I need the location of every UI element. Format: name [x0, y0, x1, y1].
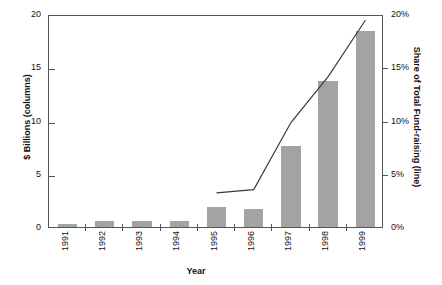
y-tick-label-left: 20 [31, 9, 41, 19]
y-tick-label-left: 0 [36, 222, 41, 232]
y-tick-label-left: 10 [31, 116, 41, 126]
y-tick-label-right: 10% [391, 116, 409, 126]
x-axis-title: Year [146, 266, 246, 276]
y-tick-mark-left [49, 176, 55, 177]
y-tick-label-right: 0% [391, 222, 404, 232]
plot-area: 05101520 0%5%10%15%20% 19911992199319941… [48, 15, 383, 228]
y-tick-mark-left [49, 69, 55, 70]
y-tick-mark-left [49, 123, 55, 124]
chart-container: $ Billions (columns) Share of Total Fund… [0, 0, 442, 285]
y-tick-label-right: 15% [391, 62, 409, 72]
y-tick-label-left: 15 [31, 62, 41, 72]
y-tick-label-left: 5 [36, 169, 41, 179]
y-axis-title-right: Share of Total Fund-raising (line) [412, 42, 422, 192]
y-tick-label-right: 20% [391, 9, 409, 19]
y-tick-label-right: 5% [391, 169, 404, 179]
line-series [49, 16, 384, 229]
